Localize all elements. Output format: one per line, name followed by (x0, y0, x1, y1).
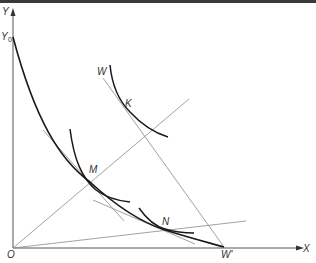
point-m-label: M (89, 164, 98, 175)
w-label: W (97, 66, 108, 77)
frontier-curve (13, 37, 224, 247)
y-axis-label: Y (2, 6, 10, 17)
x-axis-label: X (302, 243, 310, 254)
indifference-curve-k (110, 65, 168, 137)
w-prime-label: W' (221, 249, 233, 260)
origin-label: O (7, 249, 15, 260)
diagram-canvas: Y Y 0 X O W' W K M N (0, 0, 316, 263)
point-k-label: K (125, 98, 133, 109)
point-n-label: N (162, 216, 170, 227)
y0-subscript: 0 (8, 36, 12, 43)
y-axis-arrow-icon (11, 8, 16, 16)
